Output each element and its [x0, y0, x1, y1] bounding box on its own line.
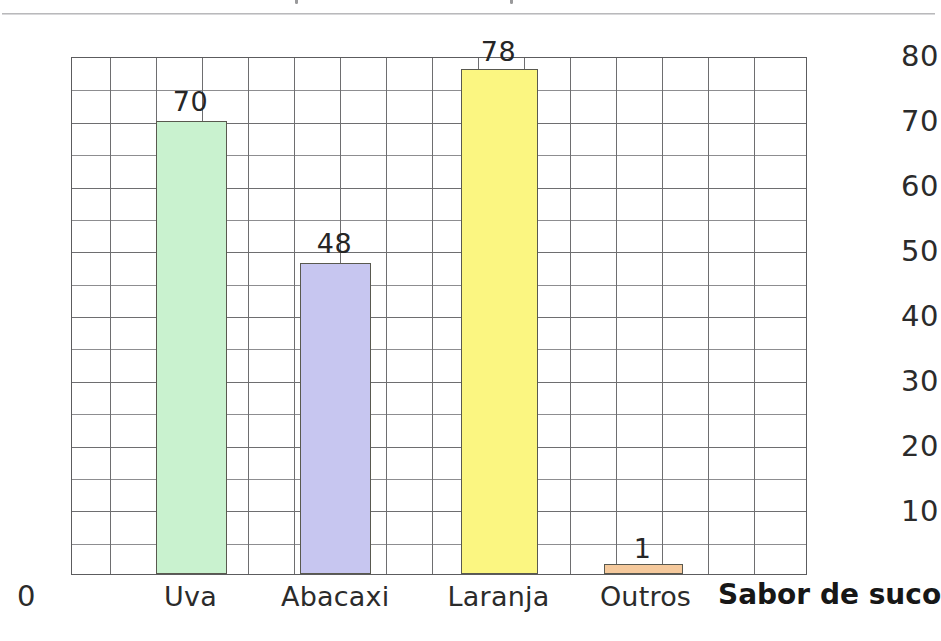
data-label-laranja: 78 — [460, 38, 537, 65]
bar-abacaxi[interactable] — [300, 263, 371, 574]
y-tick-label-30: 30 — [877, 367, 939, 396]
y-tick-label-80: 80 — [877, 42, 939, 71]
x-axis-title: Sabor de suco — [718, 581, 941, 609]
x-category-label-laranja: Laranja — [440, 583, 557, 610]
x-category-label-abacaxi: Abacaxi — [281, 583, 388, 610]
y-tick-label-50: 50 — [877, 237, 939, 266]
y-tick-label-70: 70 — [877, 107, 939, 136]
data-label-outros: 1 — [603, 535, 682, 562]
data-label-uva: 70 — [155, 88, 226, 115]
y-tick-label-60: 60 — [877, 172, 939, 201]
x-category-label-uva: Uva — [140, 583, 241, 610]
data-label-abacaxi: 48 — [299, 230, 370, 257]
y-tick-label-10: 10 — [877, 497, 939, 526]
bar-uva[interactable] — [156, 121, 227, 574]
y-tick-label-0: 0 — [17, 582, 35, 611]
y-tick-label-40: 40 — [877, 302, 939, 331]
x-category-label-outros: Outros — [590, 583, 701, 610]
bar-outros[interactable] — [604, 564, 683, 574]
bar-laranja[interactable] — [461, 69, 538, 574]
plot-area — [71, 57, 807, 575]
y-tick-label-20: 20 — [877, 432, 939, 461]
